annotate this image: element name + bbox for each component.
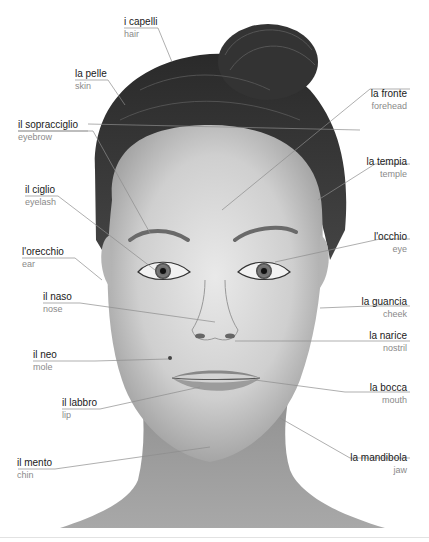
label-cheek: la guancia cheek: [361, 297, 407, 319]
label-mouth: la bocca mouth: [370, 383, 407, 405]
label-forehead-english: forehead: [371, 102, 407, 111]
label-forehead-italian: la fronte: [371, 89, 407, 99]
label-chin-italian: il mento: [17, 458, 52, 468]
label-eyebrow-italian: il sopracciglio: [18, 120, 78, 130]
label-chin: il mento chin: [17, 458, 52, 480]
label-eye-italian: l'occhio: [374, 232, 407, 242]
label-mole-italian: il neo: [33, 350, 57, 360]
label-nostril: la narice nostril: [369, 331, 407, 353]
label-eye: l'occhio eye: [374, 232, 407, 254]
face-shape: [101, 125, 329, 462]
mole-dot: [168, 356, 172, 360]
label-forehead: la fronte forehead: [371, 89, 407, 111]
label-skin: la pelle skin: [75, 69, 107, 91]
label-eyelash-italian: il ciglio: [25, 185, 56, 195]
label-eyelash: il ciglio eyelash: [25, 185, 56, 207]
label-cheek-english: cheek: [361, 310, 407, 319]
label-temple: la tempia temple: [366, 157, 407, 179]
label-skin-english: skin: [75, 82, 107, 91]
label-ear-italian: l'orecchio: [22, 247, 64, 257]
face-diagram: i capelli hair la pelle skin il sopracci…: [0, 0, 429, 542]
label-hair-italian: i capelli: [124, 17, 157, 27]
label-mole: il neo mole: [33, 350, 57, 372]
label-jaw: la mandibola jaw: [350, 453, 407, 475]
label-lip-english: lip: [62, 411, 97, 420]
label-hair: i capelli hair: [124, 17, 157, 39]
bottom-divider: [0, 537, 429, 538]
label-cheek-italian: la guancia: [361, 297, 407, 307]
label-jaw-english: jaw: [350, 466, 407, 475]
label-nostril-italian: la narice: [369, 331, 407, 341]
label-ear: l'orecchio ear: [22, 247, 64, 269]
label-eye-english: eye: [374, 245, 407, 254]
label-hair-english: hair: [124, 30, 157, 39]
label-nose-english: nose: [43, 305, 72, 314]
label-mouth-italian: la bocca: [370, 383, 407, 393]
label-nostril-english: nostril: [369, 344, 407, 353]
label-jaw-italian: la mandibola: [350, 453, 407, 463]
label-eyelash-english: eyelash: [25, 198, 56, 207]
label-chin-english: chin: [17, 471, 52, 480]
label-ear-english: ear: [22, 260, 64, 269]
label-temple-english: temple: [366, 170, 407, 179]
label-mole-english: mole: [33, 363, 57, 372]
label-lip-italian: il labbro: [62, 398, 97, 408]
label-nose: il naso nose: [43, 292, 72, 314]
label-eyebrow-english: eyebrow: [18, 133, 78, 142]
label-lip: il labbro lip: [62, 398, 97, 420]
label-mouth-english: mouth: [370, 396, 407, 405]
label-skin-italian: la pelle: [75, 69, 107, 79]
label-temple-italian: la tempia: [366, 157, 407, 167]
label-eyebrow: il sopracciglio eyebrow: [18, 120, 78, 142]
label-nose-italian: il naso: [43, 292, 72, 302]
